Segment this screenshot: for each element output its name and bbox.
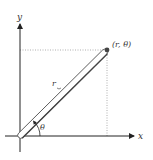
- x-axis-label: x: [138, 131, 143, 141]
- polar-coordinate-diagram: y x (r, θ) r θ: [0, 0, 153, 160]
- point-label: (r, θ): [112, 40, 131, 49]
- radius-rod: [16, 48, 108, 139]
- angle-label: θ: [40, 123, 45, 132]
- radius-label: r: [52, 79, 57, 88]
- point-marker: [105, 48, 110, 53]
- radius-brace: [57, 88, 61, 89]
- y-axis-label: y: [16, 12, 23, 22]
